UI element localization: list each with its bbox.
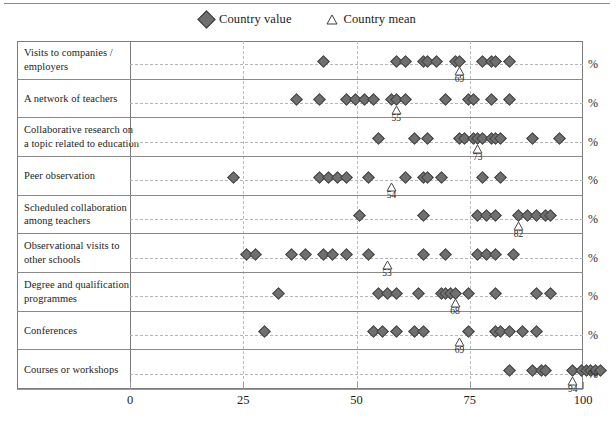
row-plot-area: 73 xyxy=(130,118,583,156)
country-value-marker[interactable] xyxy=(530,325,543,338)
country-value-marker[interactable] xyxy=(408,132,421,145)
country-value-marker[interactable] xyxy=(390,325,403,338)
row-label: Conferences xyxy=(24,312,140,350)
country-value-marker[interactable] xyxy=(363,171,376,184)
country-value-marker[interactable] xyxy=(440,93,453,106)
country-value-marker[interactable] xyxy=(526,132,539,145)
percent-unit-label: % xyxy=(588,174,598,186)
country-value-marker[interactable] xyxy=(367,93,380,106)
country-value-marker[interactable] xyxy=(503,364,516,377)
country-value-marker[interactable] xyxy=(290,93,303,106)
x-axis-tick-label: 50 xyxy=(350,394,363,407)
country-value-marker[interactable] xyxy=(503,325,516,338)
country-value-marker[interactable] xyxy=(421,132,434,145)
row-label: A network of teachers xyxy=(24,80,140,118)
chart-row: Observational visits to other schools53 xyxy=(17,234,583,273)
diamond-icon xyxy=(197,10,215,28)
country-value-marker[interactable] xyxy=(508,248,521,261)
country-value-marker[interactable] xyxy=(431,55,444,68)
country-mean-marker[interactable] xyxy=(391,101,402,111)
country-value-marker[interactable] xyxy=(227,171,240,184)
country-value-marker[interactable] xyxy=(249,248,262,261)
country-mean-marker[interactable] xyxy=(382,256,393,266)
country-value-marker[interactable] xyxy=(489,209,502,222)
country-value-marker[interactable] xyxy=(299,248,312,261)
x-axis-tick-label: 25 xyxy=(237,394,250,407)
row-plot-area: 68 xyxy=(130,273,583,311)
country-value-marker[interactable] xyxy=(376,325,389,338)
row-baseline xyxy=(130,335,583,336)
x-axis-tick-label: 100 xyxy=(574,394,593,407)
country-value-marker[interactable] xyxy=(340,248,353,261)
row-label: Peer observation xyxy=(24,157,140,195)
legend-item-country-mean: Country mean xyxy=(326,13,416,26)
country-value-marker[interactable] xyxy=(503,93,516,106)
chart-container: Country value Country mean Visits to com… xyxy=(0,0,616,422)
chart-row: Visits to companies / employers69 xyxy=(17,41,583,80)
country-value-marker[interactable] xyxy=(417,209,430,222)
country-value-marker[interactable] xyxy=(272,287,285,300)
legend-label-country-mean: Country mean xyxy=(344,13,416,26)
country-value-marker[interactable] xyxy=(354,209,367,222)
country-value-marker[interactable] xyxy=(390,287,403,300)
chart-row: Peer observation54 xyxy=(17,157,583,196)
country-value-marker[interactable] xyxy=(258,325,271,338)
chart-row: Conferences69 xyxy=(17,312,583,351)
country-value-marker[interactable] xyxy=(286,248,299,261)
row-label: Observational visits to other schools xyxy=(24,234,140,272)
country-value-marker[interactable] xyxy=(530,287,543,300)
country-mean-marker[interactable] xyxy=(513,217,524,227)
country-value-marker[interactable] xyxy=(476,171,489,184)
row-baseline xyxy=(130,374,583,375)
country-value-marker[interactable] xyxy=(326,248,339,261)
country-mean-marker[interactable] xyxy=(386,178,397,188)
country-mean-marker[interactable] xyxy=(454,62,465,72)
percent-unit-label: % xyxy=(588,290,598,302)
chart-row: Degree and qualification programmes68 xyxy=(17,273,583,312)
country-value-marker[interactable] xyxy=(417,248,430,261)
chart-row: Scheduled collaboration among teachers82 xyxy=(17,196,583,235)
country-value-marker[interactable] xyxy=(544,287,557,300)
row-label: Scheduled collaboration among teachers xyxy=(24,196,140,234)
x-axis-tick-label: 0 xyxy=(127,394,133,407)
country-value-marker[interactable] xyxy=(412,287,425,300)
country-mean-marker[interactable] xyxy=(450,294,461,304)
country-value-marker[interactable] xyxy=(313,93,326,106)
country-value-marker[interactable] xyxy=(317,55,330,68)
country-value-marker[interactable] xyxy=(485,93,498,106)
triangle-icon xyxy=(326,14,338,25)
country-value-marker[interactable] xyxy=(372,132,385,145)
country-mean-marker[interactable] xyxy=(454,333,465,343)
row-plot-area: 69 xyxy=(130,41,583,79)
percent-unit-label: % xyxy=(588,58,598,70)
country-value-marker[interactable] xyxy=(494,171,507,184)
country-value-marker[interactable] xyxy=(462,287,475,300)
country-value-marker[interactable] xyxy=(553,132,566,145)
row-plot-area: 53 xyxy=(130,234,583,272)
country-value-marker[interactable] xyxy=(503,55,516,68)
row-label: Visits to companies / employers xyxy=(24,41,140,79)
percent-unit-label: % xyxy=(588,136,598,148)
chart-row: Courses or workshops94 xyxy=(17,350,583,389)
country-value-marker[interactable] xyxy=(489,248,502,261)
row-plot-area: 69 xyxy=(130,312,583,350)
country-mean-marker[interactable] xyxy=(567,372,578,382)
row-label: Courses or workshops xyxy=(24,350,140,389)
row-label: Degree and qualification programmes xyxy=(24,273,140,311)
country-value-marker[interactable] xyxy=(417,325,430,338)
country-value-marker[interactable] xyxy=(340,171,353,184)
row-baseline xyxy=(130,180,583,181)
percent-unit-label: % xyxy=(588,97,598,109)
country-mean-marker[interactable] xyxy=(472,140,483,150)
country-value-marker[interactable] xyxy=(399,55,412,68)
country-value-marker[interactable] xyxy=(435,171,448,184)
country-value-marker[interactable] xyxy=(363,248,376,261)
country-value-marker[interactable] xyxy=(399,171,412,184)
country-value-marker[interactable] xyxy=(489,287,502,300)
header-divider xyxy=(4,3,610,4)
country-value-marker[interactable] xyxy=(440,248,453,261)
chart-row: A network of teachers55 xyxy=(17,80,583,119)
chart-legend: Country value Country mean xyxy=(0,9,616,29)
row-baseline xyxy=(130,296,583,297)
country-value-marker[interactable] xyxy=(517,325,530,338)
